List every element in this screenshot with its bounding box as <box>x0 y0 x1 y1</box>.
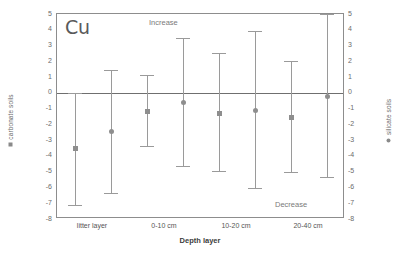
y-tick-left: -2 <box>46 120 52 127</box>
y-tick-right: 3 <box>348 41 352 48</box>
error-bar-cap-upper <box>284 61 298 62</box>
y-tick-right: -4 <box>348 151 354 158</box>
y-tick-left: -1 <box>46 104 52 111</box>
error-bar-cap-lower <box>248 188 262 189</box>
data-point <box>73 146 78 151</box>
square-marker-icon <box>9 143 13 147</box>
error-bar-cap-lower <box>212 171 226 172</box>
y-tick-left: -5 <box>46 167 52 174</box>
chart-title: Cu <box>65 16 90 38</box>
y-tick-right: 0 <box>348 88 352 95</box>
error-bar-cap-lower <box>104 193 118 194</box>
error-bar-cap-upper <box>176 38 190 39</box>
y-tick-right: -3 <box>348 136 354 143</box>
y-tick-right: 4 <box>348 25 352 32</box>
y-axis-label-left: carbonate soils <box>7 85 14 157</box>
error-bar-cap-lower <box>140 146 154 147</box>
circle-marker-icon <box>387 138 391 142</box>
y-tick-left: -3 <box>46 136 52 143</box>
y-tick-left: -8 <box>46 215 52 222</box>
error-bar-cap-lower <box>176 166 190 167</box>
data-point <box>289 115 294 120</box>
error-bar-cap-upper <box>68 93 82 94</box>
y-tick-left: -4 <box>46 151 52 158</box>
error-bar-cap-lower <box>320 177 334 178</box>
y-tick-right: 2 <box>348 57 352 64</box>
error-bar-cap-lower <box>68 205 82 206</box>
error-bar-cap-lower <box>284 172 298 173</box>
y-tick-left: 1 <box>48 73 52 80</box>
y-axis-label-left-text: carbonate soils <box>7 94 14 139</box>
data-point <box>217 111 222 116</box>
x-axis-category-labels: litter layer0-10 cm10-20 cm20-40 cm <box>56 222 344 236</box>
annotation-increase: Increase <box>149 18 178 27</box>
y-tick-right: -6 <box>348 183 354 190</box>
y-tick-right: -2 <box>348 120 354 127</box>
y-axis-ticks-right: 543210-1-2-3-4-5-6-7-8 <box>348 13 362 218</box>
data-point <box>181 100 186 105</box>
y-tick-left: -7 <box>46 199 52 206</box>
y-tick-right: -7 <box>348 199 354 206</box>
y-tick-left: 2 <box>48 57 52 64</box>
y-tick-left: 3 <box>48 41 52 48</box>
y-tick-left: 5 <box>48 10 52 17</box>
data-point <box>109 129 114 134</box>
chart-figure: carbonate soils silicate soils 543210-1-… <box>0 0 395 262</box>
error-bar-cap-upper <box>248 31 262 32</box>
y-tick-left: 0 <box>48 88 52 95</box>
y-tick-left: 4 <box>48 25 52 32</box>
data-point <box>325 94 330 99</box>
data-point <box>253 108 258 113</box>
x-axis-title: Depth layer <box>56 236 344 245</box>
y-axis-label-right-text: silicate soils <box>385 99 392 135</box>
error-bar-cap-upper <box>140 75 154 76</box>
y-tick-left: -6 <box>46 183 52 190</box>
annotation-decrease: Decrease <box>275 200 307 209</box>
x-axis-category-label: 20-40 cm <box>293 222 322 229</box>
y-axis-label-right: silicate soils <box>385 85 392 157</box>
x-axis-category-label: litter layer <box>77 222 107 229</box>
error-bar-cap-upper <box>212 53 226 54</box>
x-axis-category-label: 0-10 cm <box>151 222 176 229</box>
y-tick-right: 1 <box>348 73 352 80</box>
error-bar-cap-upper <box>320 14 334 15</box>
y-tick-right: -8 <box>348 215 354 222</box>
y-tick-right: -5 <box>348 167 354 174</box>
data-point <box>145 109 150 114</box>
y-axis-ticks-left: 543210-1-2-3-4-5-6-7-8 <box>38 13 52 218</box>
y-tick-right: 5 <box>348 10 352 17</box>
error-bar-cap-upper <box>104 70 118 71</box>
x-axis-category-label: 10-20 cm <box>221 222 250 229</box>
zero-reference-line <box>57 93 343 94</box>
y-tick-right: -1 <box>348 104 354 111</box>
plot-area: Cu Increase Decrease <box>56 13 344 218</box>
